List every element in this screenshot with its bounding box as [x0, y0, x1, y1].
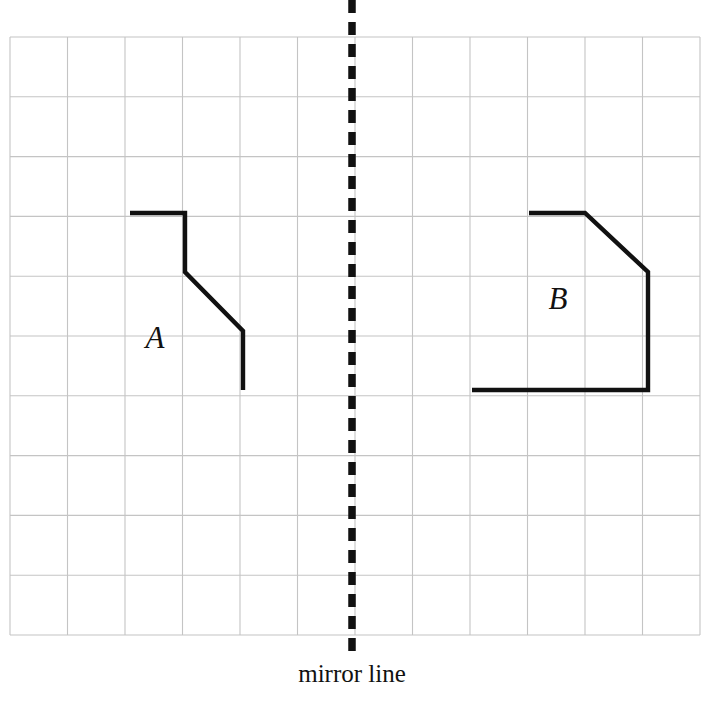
- mirror-line-caption: mirror line: [298, 660, 406, 688]
- shape-label-a: A: [144, 320, 166, 355]
- shape-label-b: B: [549, 281, 568, 316]
- figure-canvas: AB mirror line: [0, 0, 709, 709]
- diagram-svg: AB: [0, 0, 709, 709]
- shapes-layer: [130, 213, 648, 390]
- shape-a: [130, 213, 243, 390]
